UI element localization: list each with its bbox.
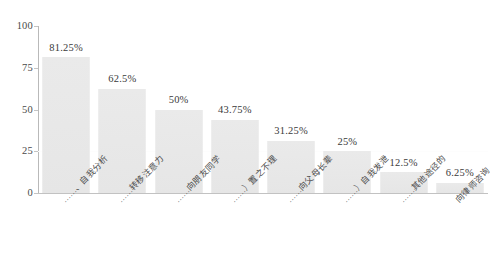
category-slot-4: 向父母长辈…… <box>263 196 319 261</box>
x-axis-category-labels: 自我分析、…… 转移注意力…… 向朋友同学…… 置之不理（…… 向父母长辈…… … <box>38 196 488 261</box>
bar-value-label-6: 12.5% <box>390 158 418 169</box>
category-slot-7: 向律师咨询 <box>432 196 488 261</box>
bar-value-label-2: 50% <box>169 95 189 106</box>
y-tick-label-0: 0 <box>28 188 33 199</box>
x-axis-line <box>38 193 488 194</box>
bar-value-label-3: 43.75% <box>218 105 252 116</box>
bar-chart: 100 75 50 25 0 81.25% 62.5% 50% 43.75% <box>0 0 495 261</box>
category-slot-1: 转移注意力…… <box>94 196 150 261</box>
bar-value-label-4: 31.25% <box>274 126 308 137</box>
category-slot-0: 自我分析、…… <box>38 196 94 261</box>
y-axis-labels: 100 75 50 25 0 <box>0 0 33 261</box>
category-slot-3: 置之不理（…… <box>207 196 263 261</box>
category-slot-2: 向朋友同学…… <box>151 196 207 261</box>
y-tick-label-100: 100 <box>17 21 33 32</box>
bar-group-0: 81.25% <box>38 26 94 193</box>
bar-group-6: 12.5% <box>376 26 432 193</box>
bar-value-label-0: 81.25% <box>49 43 83 54</box>
bar-value-label-5: 25% <box>337 137 357 148</box>
y-tick-label-75: 75 <box>22 63 33 74</box>
bar-value-label-1: 62.5% <box>108 74 136 85</box>
y-tick-label-50: 50 <box>22 104 33 115</box>
bar-value-label-7: 6.25% <box>446 168 474 179</box>
category-slot-6: 其他途径的…… <box>376 196 432 261</box>
bar-group-2: 50% <box>151 26 207 193</box>
category-slot-5: 自我发泄（…… <box>319 196 375 261</box>
y-tick-label-25: 25 <box>22 146 33 157</box>
